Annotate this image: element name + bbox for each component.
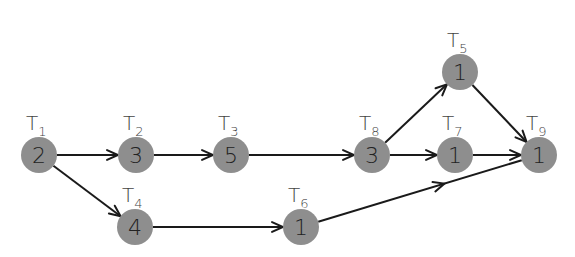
edge-line [385, 84, 447, 142]
node-t5: 1T5 [442, 28, 478, 90]
node-value: 3 [129, 143, 143, 168]
node-value: 4 [128, 215, 142, 240]
node-t4: 4T4 [117, 183, 153, 245]
edge-t8-t7 [390, 150, 437, 160]
node-label: T4 [122, 183, 143, 211]
edge-t6-t9 [318, 160, 522, 222]
node-value: 1 [294, 215, 308, 240]
node-value: 5 [224, 143, 238, 168]
node-label: T5 [447, 28, 468, 56]
node-t2: 3T2 [118, 111, 154, 173]
node-label: T9 [526, 111, 547, 139]
edge-t3-t8 [249, 150, 354, 160]
node-t3: 5T3 [213, 111, 249, 173]
node-t7: 1T7 [437, 111, 473, 173]
node-label: T2 [123, 111, 144, 139]
node-value: 1 [453, 60, 467, 85]
edge-t7-t9 [473, 150, 521, 160]
node-t6: 1T6 [283, 183, 319, 245]
node-value: 1 [448, 143, 462, 168]
node-label: T3 [218, 111, 239, 139]
edge-t4-t6 [153, 222, 283, 232]
node-value: 2 [32, 143, 46, 168]
node-label: T6 [288, 183, 309, 211]
node-label: T1 [26, 111, 47, 139]
edge-line [53, 166, 120, 216]
node-label: T8 [359, 111, 380, 139]
edge-t1-t4 [53, 166, 120, 216]
edge-t1-t2 [57, 150, 118, 160]
node-value: 1 [532, 143, 546, 168]
edge-t8-t5 [385, 84, 447, 142]
task-graph: 2T13T25T34T41T51T61T73T81T9 [0, 0, 575, 257]
edge-line [472, 85, 526, 142]
node-value: 3 [365, 143, 379, 168]
node-label: T7 [442, 111, 463, 139]
node-t1: 2T1 [21, 111, 57, 173]
edge-t5-t9 [472, 85, 526, 142]
edge-line [318, 160, 522, 222]
edge-t2-t3 [154, 150, 213, 160]
